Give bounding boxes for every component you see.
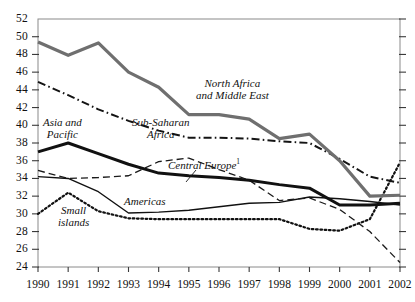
series-label-asia-pacific: Asia and Pacific [43, 117, 82, 140]
series-line [38, 143, 400, 205]
x-tick-label: 1995 [172, 278, 206, 290]
series-label-north-africa-line2: and Middle East [196, 89, 269, 101]
x-tick-label: 1990 [21, 278, 55, 290]
chart-figure: 525048464442403836343230282624 199019911… [0, 0, 415, 302]
y-axis-ticks [32, 19, 406, 267]
series-label-subsaharan-line2: Africa [147, 128, 175, 140]
x-tick-label: 1991 [51, 278, 85, 290]
y-tick-label: 36 [2, 154, 28, 166]
x-tick-label: 2001 [353, 278, 387, 290]
series-label-central-europe: Central Europe1 [168, 156, 240, 171]
x-tick-label: 1992 [81, 278, 115, 290]
x-tick-label: 1998 [262, 278, 296, 290]
line-chart-canvas [0, 0, 415, 302]
series-label-small-islands: Small islands [58, 205, 89, 228]
x-tick-label: 1994 [142, 278, 176, 290]
y-tick-label: 50 [2, 30, 28, 42]
y-tick-label: 34 [2, 171, 28, 183]
plot-frame [38, 19, 400, 267]
series-label-asia-line2: Pacific [47, 128, 78, 140]
series-label-subsaharan-line1: Sub-Saharan [132, 116, 189, 128]
y-tick-label: 26 [2, 242, 28, 254]
y-tick-label: 30 [2, 207, 28, 219]
x-tick-label: 1996 [202, 278, 236, 290]
x-tick-label: 2000 [323, 278, 357, 290]
series-label-americas-text: Americas [124, 195, 166, 207]
series-label-north-africa-line1: North Africa [204, 77, 260, 89]
y-tick-label: 44 [2, 83, 28, 95]
y-tick-label: 40 [2, 118, 28, 130]
y-tick-label: 46 [2, 65, 28, 77]
x-tick-label: 1997 [232, 278, 266, 290]
y-tick-label: 42 [2, 101, 28, 113]
series-label-asia-line1: Asia and [43, 116, 82, 128]
series-label-north-africa: North Africa and Middle East [196, 78, 269, 101]
x-tick-label: 1999 [293, 278, 327, 290]
x-axis-ticks [38, 267, 400, 272]
footnote-marker: 1 [236, 157, 240, 166]
series-label-small-islands-line2: islands [58, 216, 89, 228]
x-tick-label: 2002 [383, 278, 415, 290]
series-label-americas: Americas [124, 196, 166, 208]
series-label-central-europe-text: Central Europe [168, 159, 236, 171]
series-label-small-islands-line1: Small [61, 204, 86, 216]
y-tick-label: 32 [2, 189, 28, 201]
series-line [38, 162, 400, 230]
series-label-subsaharan-africa: Sub-Saharan Africa [132, 117, 189, 140]
y-tick-label: 52 [2, 12, 28, 24]
x-tick-label: 1993 [112, 278, 146, 290]
y-tick-label: 24 [2, 260, 28, 272]
series-line [38, 42, 400, 196]
data-series-group [38, 42, 400, 263]
y-tick-label: 48 [2, 47, 28, 59]
y-tick-label: 38 [2, 136, 28, 148]
series-line [38, 158, 400, 263]
y-tick-label: 28 [2, 225, 28, 237]
